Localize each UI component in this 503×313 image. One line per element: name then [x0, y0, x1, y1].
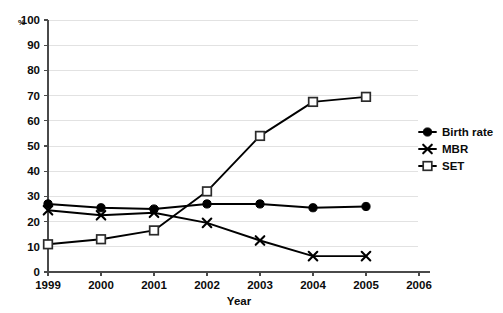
legend-set-marker — [423, 162, 432, 171]
series-set-point-3-marker — [203, 187, 212, 196]
series-birth-rate-point-4-marker — [256, 200, 264, 208]
x-tick-label: 2005 — [353, 279, 379, 291]
y-axis-tick-labels: 0102030405060708090100 — [21, 14, 40, 278]
chart-container: % 0102030405060708090100 199920002001200… — [0, 0, 503, 313]
series-birth-rate-point-5-marker — [309, 204, 317, 212]
y-tick-label: 80 — [27, 64, 40, 76]
line-chart: % 0102030405060708090100 199920002001200… — [0, 0, 503, 313]
series-birth-rate-point-6-marker — [362, 202, 370, 210]
chart-legend: Birth rateMBRSET — [419, 126, 493, 172]
legend-birth-rate-marker — [423, 128, 431, 136]
y-tick-label: 70 — [27, 90, 40, 102]
y-tick-label: 100 — [21, 14, 40, 26]
y-tick-label: 30 — [27, 190, 40, 202]
series-set-point-6-marker — [362, 93, 371, 102]
y-tick-label: 60 — [27, 115, 40, 127]
legend-item-birth-rate: Birth rate — [419, 126, 493, 138]
series-mbr — [44, 206, 371, 260]
x-tick-label: 2006 — [406, 279, 432, 291]
x-axis-tick-labels: 19992000200120022003200420052006 — [35, 279, 432, 291]
series-set-point-5-marker — [309, 98, 318, 107]
x-axis-title: Year — [227, 295, 252, 307]
series-set-point-0-marker — [44, 240, 53, 249]
legend-label-set: SET — [442, 160, 464, 172]
legend-label-mbr: MBR — [442, 143, 469, 155]
x-tick-label: 1999 — [35, 279, 61, 291]
series-set-point-2-marker — [150, 226, 159, 235]
series-set-point-4-marker — [256, 132, 265, 141]
x-tick-label: 2000 — [88, 279, 114, 291]
data-series-group — [44, 93, 371, 261]
x-tick-label: 2003 — [247, 279, 273, 291]
y-tick-label: 10 — [27, 241, 40, 253]
series-birth-rate-point-1-marker — [97, 204, 105, 212]
series-birth-rate-point-3-marker — [203, 200, 211, 208]
legend-label-birth-rate: Birth rate — [442, 126, 493, 138]
y-tick-label: 0 — [34, 266, 40, 278]
x-tick-label: 2002 — [194, 279, 220, 291]
y-tick-label: 20 — [27, 216, 40, 228]
y-tick-label: 50 — [27, 140, 40, 152]
series-birth-rate — [44, 200, 370, 213]
series-line-mbr — [48, 210, 366, 256]
x-tick-label: 2004 — [300, 279, 326, 291]
x-tick-label: 2001 — [141, 279, 167, 291]
y-tick-label: 90 — [27, 39, 40, 51]
legend-item-set: SET — [419, 160, 464, 172]
series-set — [44, 93, 371, 249]
y-tick-label: 40 — [27, 165, 40, 177]
legend-item-mbr: MBR — [419, 143, 469, 155]
series-set-point-1-marker — [97, 235, 106, 244]
